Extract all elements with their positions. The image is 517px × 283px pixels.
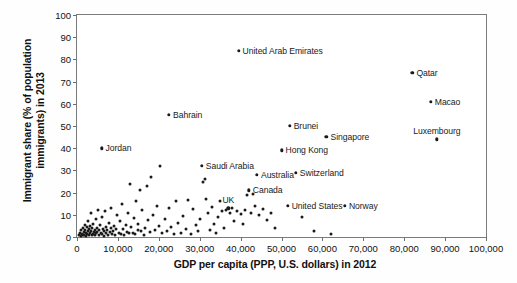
data-point-label: Canada [253,185,283,195]
data-point [155,204,158,207]
data-point-label: Bahrain [173,110,202,120]
y-axis-tick-label: 20 [41,187,71,198]
data-point [159,164,162,167]
data-point [179,231,182,234]
data-point [213,222,216,225]
data-point [114,233,117,236]
data-point [150,176,153,179]
data-point [245,193,248,196]
data-point [101,216,104,219]
data-point [97,209,100,212]
y-axis-tick-label: 30 [41,165,71,176]
data-point [123,234,126,237]
x-axis-tick-label: 20,000 [144,243,173,254]
data-point [167,207,170,210]
data-point [182,214,185,217]
data-point [194,223,197,226]
data-point-label: UK [222,195,234,205]
x-axis-title: GDP per capita (PPP, U.S. dollars) in 20… [60,258,490,270]
data-point-labeled [286,204,289,207]
x-axis-tick [282,237,283,241]
data-point [217,216,220,219]
x-axis-tick [77,237,78,241]
data-point [192,208,195,211]
y-axis-tick [73,82,77,83]
data-point [112,224,115,227]
y-axis-tick [73,37,77,38]
scatter-chart-figure: Immigrant share (% of population immigra… [0,0,517,283]
data-point [233,220,236,223]
data-point [253,204,256,207]
data-point [210,206,213,209]
data-point [153,228,156,231]
x-axis-tick [200,237,201,241]
x-axis-tick [159,237,160,241]
data-point [141,209,144,212]
data-point [152,213,155,216]
data-point [134,233,137,236]
data-point-label: Singapore [330,132,369,142]
data-point [116,213,119,216]
data-point [86,220,89,223]
data-point [107,234,110,237]
data-point-label: Qatar [416,68,437,78]
x-axis-tick-label: 70,000 [349,243,378,254]
data-point [229,211,232,214]
data-point-label: Brunei [294,121,319,131]
data-point [104,210,107,213]
x-axis-tick-label: 30,000 [185,243,214,254]
data-point [120,202,123,205]
data-point-label: Jordan [106,143,132,153]
data-point-label: United Arab Emirates [243,46,323,56]
data-point [239,212,242,215]
y-axis-tick [73,215,77,216]
y-axis-tick [73,59,77,60]
data-point [174,200,177,203]
data-point [109,207,112,210]
data-point [329,232,332,235]
data-point [165,230,168,233]
data-point [138,189,141,192]
data-point [147,219,150,222]
data-point-labeled [255,173,258,176]
data-point [313,230,316,233]
x-axis-tick-label: 100,000 [469,243,503,254]
data-point [205,198,208,201]
data-point [221,210,224,213]
data-point [219,200,222,203]
y-axis-tick [73,170,77,171]
y-axis-tick-label: 60 [41,98,71,109]
data-point [300,216,303,219]
data-point [187,199,190,202]
data-point [145,184,148,187]
x-axis-tick [241,237,242,241]
x-axis-tick [118,237,119,241]
data-point [130,226,133,229]
data-point [170,226,173,229]
data-point [143,227,146,230]
data-point [274,227,277,230]
data-point [102,234,105,237]
data-point [241,222,244,225]
data-point-label: Norway [349,201,378,211]
data-point [140,230,143,233]
data-point-labeled [237,49,240,52]
y-axis-tick [73,15,77,16]
data-point [129,182,132,185]
data-point [94,218,97,221]
data-point [136,229,139,232]
data-point [107,221,110,224]
x-axis-tick [486,237,487,241]
data-point [90,211,93,214]
data-point [223,227,226,230]
plot-area: 0102030405060708090100010,00020,00030,00… [76,14,487,238]
data-point [235,210,238,213]
x-axis-tick [363,237,364,241]
x-axis-tick-label: 80,000 [390,243,419,254]
data-point-labeled [294,171,297,174]
x-axis-tick-label: 40,000 [226,243,255,254]
data-point [122,228,125,231]
y-axis-tick [73,193,77,194]
x-axis-tick-label: 50,000 [267,243,296,254]
data-point [104,225,107,228]
